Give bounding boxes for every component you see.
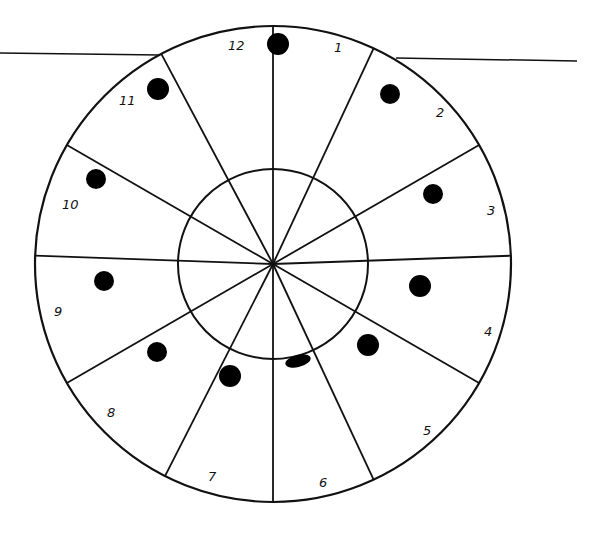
- dot-marker: [94, 271, 114, 291]
- spoke-line: [273, 145, 479, 264]
- dot-marker: [86, 169, 106, 189]
- segment-label: 10: [62, 197, 79, 212]
- segment-label: 2: [436, 105, 444, 120]
- dot-marker: [409, 275, 431, 297]
- dot-marker: [267, 33, 289, 55]
- horizon-line: [0, 53, 160, 55]
- spokes: [35, 26, 511, 502]
- segment-label: 11: [119, 93, 136, 108]
- dot-marker: [147, 78, 169, 100]
- dots: [86, 33, 443, 387]
- segment-label: 4: [484, 324, 492, 339]
- segment-label: 8: [107, 405, 115, 420]
- dot-marker: [423, 184, 443, 204]
- segment-label: 1: [334, 40, 342, 55]
- spoke-line: [273, 256, 511, 264]
- segment-label: 12: [228, 38, 245, 53]
- dot-marker: [284, 352, 312, 370]
- spoke-line: [273, 48, 374, 264]
- segment-label: 9: [54, 304, 62, 319]
- segment-label: 3: [487, 203, 495, 218]
- spoke-line: [35, 256, 273, 264]
- spoke-line: [273, 264, 374, 480]
- segment-label: 5: [423, 423, 431, 438]
- segment-label: 7: [208, 469, 217, 484]
- dot-marker: [357, 334, 379, 356]
- dot-marker: [380, 84, 400, 104]
- horizon-line: [396, 58, 577, 61]
- horizon-lines: [0, 53, 577, 61]
- dot-marker: [147, 342, 167, 362]
- segment-label: 6: [319, 475, 327, 490]
- dot-marker: [219, 365, 241, 387]
- clock-wheel-diagram: 121234567891011: [0, 0, 603, 534]
